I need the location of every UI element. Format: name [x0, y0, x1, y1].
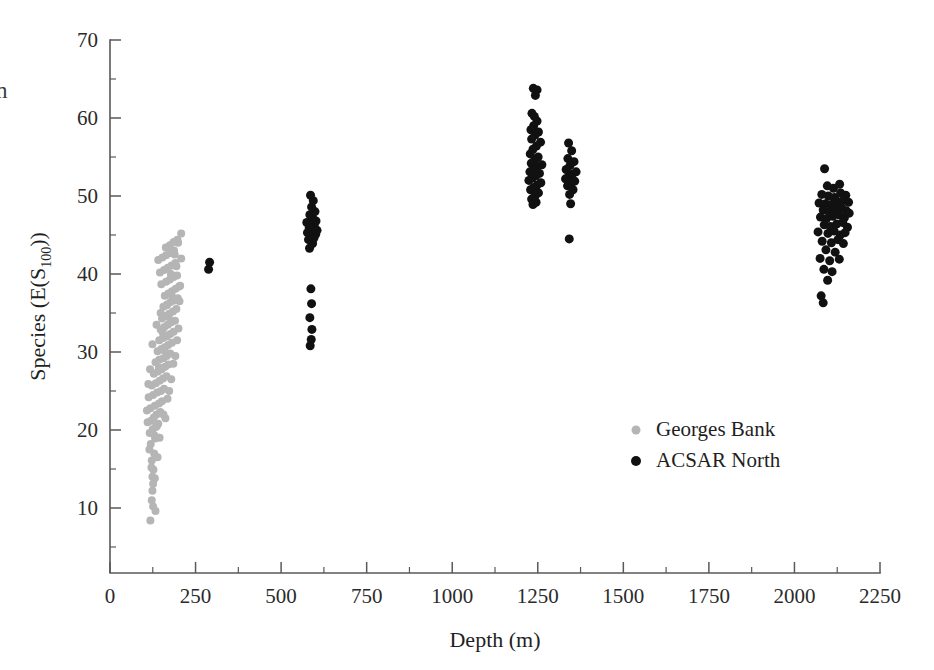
- data-point: [152, 507, 160, 515]
- data-point: [819, 265, 828, 274]
- data-point: [845, 209, 854, 218]
- data-point: [145, 446, 153, 454]
- data-point: [153, 422, 161, 430]
- data-point: [835, 180, 844, 189]
- data-point: [564, 138, 573, 147]
- data-point: [167, 375, 175, 383]
- data-point: [159, 329, 167, 337]
- data-point: [175, 297, 183, 305]
- data-point: [148, 340, 156, 348]
- data-point: [161, 414, 169, 422]
- y-tick-label: 70: [77, 28, 98, 52]
- legend-label: Georges Bank: [656, 417, 776, 441]
- data-point: [567, 146, 576, 155]
- data-point: [147, 463, 155, 471]
- data-point: [172, 305, 180, 313]
- data-point: [163, 395, 171, 403]
- data-point: [143, 407, 151, 415]
- data-point: [167, 270, 175, 278]
- data-point: [819, 298, 828, 307]
- data-point: [305, 313, 314, 322]
- x-tick-label: 2250: [859, 584, 901, 608]
- data-point: [816, 254, 825, 263]
- y-tick-label: 20: [77, 418, 98, 442]
- legend-label: ACSAR North: [656, 448, 781, 472]
- y-tick-label: 30: [77, 340, 98, 364]
- data-point: [565, 234, 574, 243]
- data-point: [176, 282, 184, 290]
- data-point: [306, 191, 315, 200]
- data-point: [205, 258, 214, 267]
- data-point: [835, 255, 844, 264]
- data-point: [823, 276, 832, 285]
- data-point: [144, 380, 152, 388]
- data-point: [821, 245, 830, 254]
- y-axis-title: Species (E(S100)): [25, 232, 54, 381]
- data-point: [566, 199, 575, 208]
- y-tick-label: 60: [77, 106, 98, 130]
- data-point: [153, 321, 161, 329]
- data-point: [151, 474, 159, 482]
- axis-titles: Depth (m)Species (E(S100))n: [0, 78, 541, 652]
- series-georges-bank: [143, 229, 185, 524]
- data-point: [177, 229, 185, 237]
- data-point: [155, 364, 163, 372]
- data-point: [148, 487, 156, 495]
- legend: Georges BankACSAR North: [631, 417, 781, 472]
- data-point: [825, 256, 834, 265]
- data-point: [174, 325, 182, 333]
- x-axis-title: Depth (m): [449, 627, 540, 652]
- data-point: [172, 262, 180, 270]
- y-tick-label: 10: [77, 496, 98, 520]
- data-point: [165, 313, 173, 321]
- x-tick-label: 1250: [517, 584, 559, 608]
- x-tick-label: 750: [351, 584, 383, 608]
- data-point: [157, 309, 165, 317]
- data-point: [307, 299, 316, 308]
- data-point: [146, 516, 154, 524]
- scatter-plot-figure: 0250500750100012501500175020002250102030…: [0, 0, 934, 670]
- x-tick-label: 2000: [773, 584, 815, 608]
- data-point: [307, 335, 316, 344]
- data-point: [173, 336, 181, 344]
- data-point: [163, 301, 171, 309]
- x-tick-label: 1000: [431, 584, 473, 608]
- data-point: [169, 293, 177, 301]
- data-point: [177, 254, 185, 262]
- data-point: [565, 190, 574, 199]
- data-point: [814, 227, 823, 236]
- data-point: [306, 284, 315, 293]
- x-tick-label: 250: [180, 584, 212, 608]
- plot-canvas: 0250500750100012501500175020002250102030…: [0, 0, 934, 670]
- x-tick-label: 0: [105, 584, 116, 608]
- data-point: [160, 346, 168, 354]
- axis-spines: [110, 40, 880, 573]
- x-tick-label: 1500: [602, 584, 644, 608]
- x-tick-label: 1750: [688, 584, 730, 608]
- data-point: [839, 239, 848, 248]
- y-tick-label: 40: [77, 262, 98, 286]
- series-acsar-north: [204, 84, 854, 350]
- axes: 0250500750100012501500175020002250102030…: [77, 28, 901, 608]
- edge-text-fragment: n: [0, 78, 8, 103]
- legend-marker: [632, 426, 641, 435]
- data-point: [307, 325, 316, 334]
- data-point: [841, 228, 850, 237]
- data-point: [169, 360, 177, 368]
- data-point: [528, 200, 537, 209]
- y-tick-label: 50: [77, 184, 98, 208]
- data-point: [828, 267, 837, 276]
- data-point: [165, 387, 173, 395]
- data-point: [156, 434, 164, 442]
- data-point: [171, 352, 179, 360]
- data-point: [818, 237, 827, 246]
- data-point: [531, 91, 540, 100]
- data-point: [146, 365, 154, 373]
- data-point: [174, 239, 182, 247]
- data-point: [154, 453, 162, 461]
- x-tick-label: 500: [265, 584, 297, 608]
- data-point: [144, 418, 152, 426]
- data-point: [820, 164, 829, 173]
- legend-marker: [631, 456, 641, 466]
